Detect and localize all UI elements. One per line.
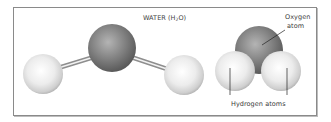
hydrogen-atom-left-space-filling (215, 51, 255, 91)
oxygen-label-line1: Oxygen (285, 14, 310, 21)
diagram-title: WATER (H2O) (143, 15, 186, 23)
hydrogen-atom-right-space-filling (261, 51, 301, 91)
ball-and-stick-model (23, 24, 204, 95)
oxygen-label-line2: atom (287, 23, 304, 30)
hydrogen-atom-left (23, 54, 63, 94)
space-filling-model (215, 26, 301, 91)
hydrogen-atom-right (164, 55, 204, 95)
hydrogen-label: Hydrogen atoms (231, 101, 286, 108)
oxygen-atom (88, 24, 136, 72)
